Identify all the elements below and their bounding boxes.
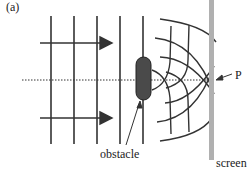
obstacle-label: obstacle xyxy=(100,148,139,160)
panel-label: (a) xyxy=(6,1,19,13)
obstacle-arrow xyxy=(126,101,142,145)
obstacle-shape xyxy=(136,57,151,100)
point-p-label: P xyxy=(235,69,242,81)
screen-bar xyxy=(209,0,214,160)
screen-label: screen xyxy=(216,157,247,169)
point-p-arrow xyxy=(216,74,232,80)
